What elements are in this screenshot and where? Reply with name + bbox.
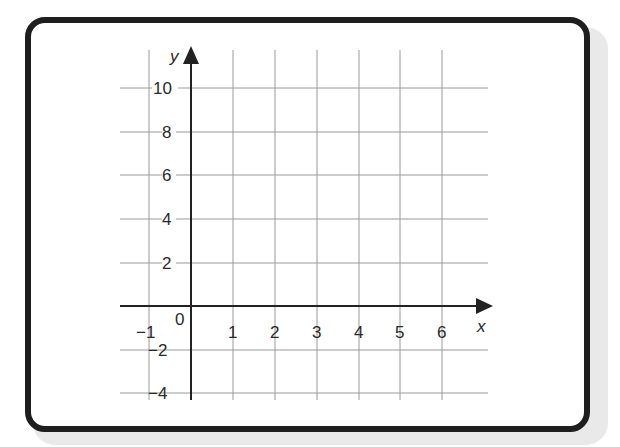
y-axis-label: y — [169, 47, 180, 66]
y-tick-label: −2 — [148, 341, 167, 360]
y-tick-label: 4 — [162, 210, 171, 229]
y-tick-label: 10 — [153, 79, 172, 98]
x-tick-label: 3 — [312, 323, 321, 342]
y-tick-label: 8 — [162, 123, 171, 142]
x-tick-label: 5 — [395, 323, 404, 342]
x-tick-label: 6 — [437, 323, 446, 342]
coordinate-grid: y x 0 −1 1 2 3 4 5 6 10 8 6 4 2 −2 −4 — [0, 0, 620, 447]
y-tick-label: −4 — [148, 384, 167, 403]
y-tick-label: 6 — [162, 166, 171, 185]
x-axis-label: x — [476, 317, 486, 336]
y-axis — [183, 46, 199, 400]
x-tick-label: 2 — [270, 323, 279, 342]
y-tick-label: 2 — [162, 254, 171, 273]
y-tick-labels: 10 8 6 4 2 −2 −4 — [148, 79, 178, 403]
y-axis-arrow-icon — [183, 46, 199, 64]
x-tick-label: −1 — [136, 323, 155, 342]
origin-label: 0 — [175, 310, 184, 329]
x-tick-label: 1 — [228, 323, 237, 342]
x-tick-label: 4 — [354, 323, 363, 342]
x-axis-arrow-icon — [476, 298, 493, 314]
vertical-grid-lines — [149, 50, 442, 400]
